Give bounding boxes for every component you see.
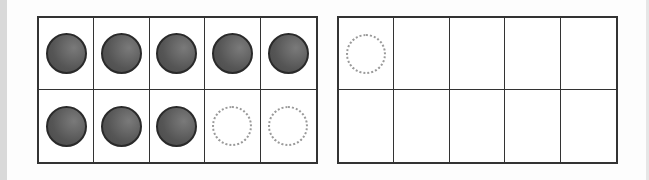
filled-counter-icon — [156, 33, 197, 74]
filled-counter-icon — [212, 33, 253, 74]
filled-counter-icon — [268, 33, 309, 74]
frame-cell — [205, 90, 260, 162]
frame-cell — [561, 18, 616, 90]
frame-cell — [205, 18, 260, 90]
dotted-circle-icon — [212, 106, 252, 146]
frame-cell — [150, 18, 205, 90]
frame-cell — [450, 90, 505, 162]
frame-cell — [505, 18, 560, 90]
frame-cell — [150, 90, 205, 162]
dotted-circle-icon — [268, 106, 308, 146]
frame-cell — [39, 90, 94, 162]
frame-cell — [94, 90, 149, 162]
ten-frame-left — [37, 16, 318, 164]
frame-cell — [394, 18, 449, 90]
left-edge-strip — [0, 0, 7, 180]
frame-cell — [505, 90, 560, 162]
frame-cell — [261, 90, 316, 162]
frame-cell — [261, 18, 316, 90]
filled-counter-icon — [156, 106, 197, 147]
frame-cell — [561, 90, 616, 162]
frame-cell — [450, 18, 505, 90]
filled-counter-icon — [46, 33, 87, 74]
frame-cell — [94, 18, 149, 90]
filled-counter-icon — [101, 106, 142, 147]
dotted-circle-icon — [346, 34, 386, 74]
frame-cell — [339, 18, 394, 90]
filled-counter-icon — [46, 106, 87, 147]
filled-counter-icon — [101, 33, 142, 74]
frame-cell — [39, 18, 94, 90]
ten-frame-right — [337, 16, 618, 164]
frame-cell — [394, 90, 449, 162]
frame-cell — [339, 90, 394, 162]
